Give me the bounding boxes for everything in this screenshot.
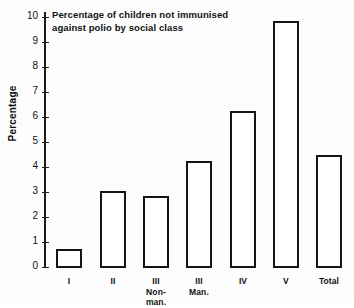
y-tick-label-1: 1 xyxy=(16,235,38,247)
bar-class-iv xyxy=(230,111,256,268)
bar-total xyxy=(316,155,342,268)
y-tick-6: 6 xyxy=(42,117,49,118)
x-label-line: II xyxy=(100,276,126,287)
y-tick-label-2: 2 xyxy=(16,210,38,222)
x-label-class-iii-nonman: III Non- man. xyxy=(139,276,173,308)
x-label-class-iii-man: III Man. xyxy=(182,276,216,297)
x-label-class-ii: II xyxy=(100,276,126,287)
y-tick-0: 0 xyxy=(42,267,49,268)
y-tick-label-4: 4 xyxy=(16,160,38,172)
x-label-line: Man. xyxy=(182,287,216,298)
y-tick-label-6: 6 xyxy=(16,110,38,122)
y-tick-label-5: 5 xyxy=(16,135,38,147)
y-tick-label-3: 3 xyxy=(16,185,38,197)
y-tick-1: 1 xyxy=(42,242,49,243)
bar-class-v xyxy=(273,21,299,269)
y-tick-9: 9 xyxy=(42,42,49,43)
y-tick-label-0: 0 xyxy=(16,260,38,272)
x-label-class-v: V xyxy=(273,276,299,287)
x-label-line: I xyxy=(56,276,82,287)
y-tick-2: 2 xyxy=(42,217,49,218)
y-tick-5: 5 xyxy=(42,142,49,143)
y-tick-8: 8 xyxy=(42,67,49,68)
bar-class-iii-nonman xyxy=(143,196,169,268)
x-label-line: Non- xyxy=(139,287,173,298)
x-label-line: III xyxy=(182,276,216,287)
x-label-class-iv: IV xyxy=(230,276,256,287)
x-label-line: Total xyxy=(310,276,348,287)
y-tick-10: 10 xyxy=(42,17,49,18)
y-tick-label-8: 8 xyxy=(16,60,38,72)
y-tick-3: 3 xyxy=(42,192,49,193)
y-tick-4: 4 xyxy=(42,167,49,168)
y-tick-7: 7 xyxy=(42,92,49,93)
x-label-total: Total xyxy=(310,276,348,287)
x-label-line: V xyxy=(273,276,299,287)
y-tick-label-9: 9 xyxy=(16,35,38,47)
y-axis-line xyxy=(44,12,46,267)
x-label-line: IV xyxy=(230,276,256,287)
y-tick-label-7: 7 xyxy=(16,85,38,97)
plot-area: 0 1 2 3 4 5 6 7 8 9 10 xyxy=(44,8,350,268)
x-label-line: III xyxy=(139,276,173,287)
bar-class-ii xyxy=(100,191,126,268)
bar-class-i xyxy=(56,249,82,268)
x-label-class-i: I xyxy=(56,276,82,287)
bar-class-iii-man xyxy=(186,161,212,269)
y-tick-label-10: 10 xyxy=(16,10,38,22)
x-label-line: man. xyxy=(139,297,173,308)
